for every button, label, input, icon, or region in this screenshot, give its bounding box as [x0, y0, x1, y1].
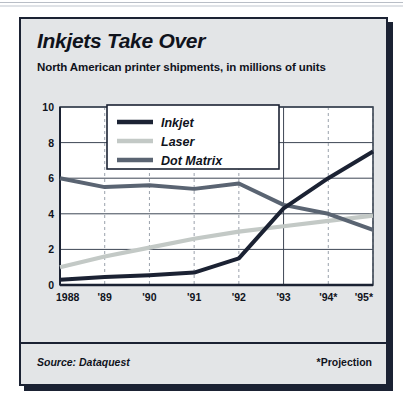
x-axis-tick-label: 1988: [56, 291, 80, 303]
chart-footer: Source: Dataquest *Projection: [21, 342, 386, 384]
chart-plot-area: 02468101988'89'90'91'92'93'94*'95*Inkjet…: [29, 101, 381, 319]
chart-card: Inkjets Take Over North American printer…: [19, 17, 388, 386]
x-axis-tick-label: '93: [276, 291, 290, 303]
y-axis-tick-label: 2: [48, 243, 54, 255]
legend-label-laser: Laser: [161, 135, 195, 149]
y-axis-tick-label: 10: [42, 101, 54, 113]
x-axis-tick-label: '94*: [319, 291, 338, 303]
x-axis-tick-label: '92: [232, 291, 246, 303]
scan-rule-secondary: [0, 5, 403, 7]
page-title: Inkjets Take Over: [37, 29, 205, 53]
y-axis-tick-label: 4: [48, 208, 54, 220]
chart-subtitle: North American printer shipments, in mil…: [37, 60, 367, 74]
x-axis-tick-label: '89: [98, 291, 112, 303]
x-axis-tick-label: '90: [142, 291, 156, 303]
line-chart-svg: 02468101988'89'90'91'92'93'94*'95*Inkjet…: [29, 101, 381, 319]
source-label: Source: Dataquest: [37, 356, 130, 368]
legend-label-inkjet: Inkjet: [161, 116, 194, 130]
x-axis-tick-label: '91: [187, 291, 201, 303]
scan-rule-top: [0, 2, 403, 3]
x-axis-tick-label: '95*: [355, 291, 374, 303]
projection-note: *Projection: [317, 356, 372, 368]
screenshot-root: Inkjets Take Over North American printer…: [0, 0, 403, 411]
y-axis-tick-label: 0: [48, 279, 54, 291]
y-axis-tick-label: 8: [48, 137, 54, 149]
y-axis-tick-label: 6: [48, 172, 54, 184]
legend-label-dot-matrix: Dot Matrix: [161, 154, 223, 168]
